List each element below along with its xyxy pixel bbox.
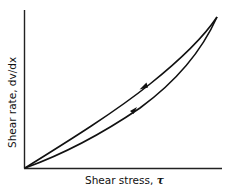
upper-curve [25, 17, 217, 168]
hysteresis-diagram: Shear stress, τ Shear rate, dv/dx [0, 0, 238, 189]
x-axis-label: Shear stress, τ [85, 174, 165, 186]
y-axis-label: Shear rate, dv/dx [6, 57, 18, 148]
arrow-down-icon [140, 83, 149, 90]
lower-curve [25, 17, 217, 168]
